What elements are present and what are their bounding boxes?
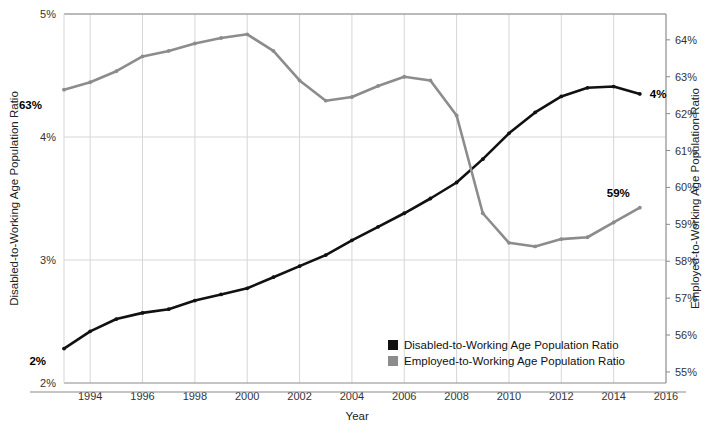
data-point-marker bbox=[350, 95, 354, 99]
x-axis-title: Year bbox=[346, 410, 369, 422]
data-point-marker bbox=[114, 69, 118, 73]
annotation-layer: 2%4%63%59% bbox=[19, 88, 666, 367]
data-point-marker bbox=[612, 221, 616, 225]
data-point-marker bbox=[298, 264, 302, 268]
dual-axis-line-chart: 1994199619982000200220042006200820102012… bbox=[0, 0, 709, 443]
grid-layer bbox=[64, 14, 666, 383]
data-point-marker bbox=[533, 111, 537, 115]
data-point-marker bbox=[638, 92, 642, 96]
data-point-marker bbox=[559, 95, 563, 99]
legend-swatch bbox=[388, 340, 398, 350]
data-point-marker bbox=[455, 114, 459, 118]
legend-layer: Disabled-to-Working Age Population Ratio… bbox=[388, 339, 625, 367]
legend-label: Employed-to-Working Age Population Ratio bbox=[404, 355, 625, 367]
y-tick-label-left: 5% bbox=[40, 8, 56, 20]
data-point-marker bbox=[167, 307, 171, 311]
data-point-marker bbox=[245, 32, 249, 36]
data-point-marker bbox=[271, 275, 275, 279]
data-point-marker bbox=[324, 253, 328, 257]
y-tick-label-right: 63% bbox=[675, 71, 697, 83]
axis-titles-layer: YearDisabled-to-Working Age Population R… bbox=[8, 88, 701, 422]
data-point-marker bbox=[586, 86, 590, 90]
y-tick-label-left: 4% bbox=[40, 131, 56, 143]
y-tick-label-right: 64% bbox=[675, 34, 697, 46]
y-tick-label-right: 56% bbox=[675, 329, 697, 341]
data-point-marker bbox=[88, 80, 92, 84]
y-tick-label-right: 55% bbox=[675, 366, 697, 378]
data-point-marker bbox=[62, 88, 66, 92]
data-point-marker bbox=[62, 347, 66, 351]
data-point-marker bbox=[533, 245, 537, 249]
data-point-marker bbox=[429, 79, 433, 83]
data-point-marker bbox=[507, 241, 511, 245]
data-point-marker bbox=[167, 49, 171, 53]
data-point-marker bbox=[193, 299, 197, 303]
data-point-marker bbox=[402, 75, 406, 79]
data-point-marker bbox=[245, 286, 249, 290]
y-axis-title-right: Employed-to-Working Age Population Ratio bbox=[689, 88, 701, 309]
data-point-marker bbox=[612, 85, 616, 89]
data-point-marker bbox=[455, 181, 459, 185]
data-point-marker bbox=[586, 235, 590, 239]
value-annotation: 4% bbox=[650, 88, 667, 100]
y-tick-label-left: 3% bbox=[40, 254, 56, 266]
data-point-marker bbox=[429, 197, 433, 201]
value-annotation: 2% bbox=[29, 355, 46, 367]
data-point-marker bbox=[88, 329, 92, 333]
data-point-marker bbox=[376, 84, 380, 88]
data-point-marker bbox=[271, 49, 275, 53]
data-point-marker bbox=[402, 211, 406, 215]
y-tick-label-left: 2% bbox=[40, 377, 56, 389]
data-point-marker bbox=[219, 36, 223, 40]
data-point-marker bbox=[324, 99, 328, 103]
data-point-marker bbox=[376, 225, 380, 229]
data-point-marker bbox=[219, 293, 223, 297]
value-annotation: 59% bbox=[607, 187, 630, 199]
data-point-marker bbox=[193, 42, 197, 46]
data-point-marker bbox=[481, 157, 485, 161]
data-point-marker bbox=[350, 238, 354, 242]
data-point-marker bbox=[114, 317, 118, 321]
data-point-marker bbox=[507, 131, 511, 135]
data-point-marker bbox=[559, 237, 563, 241]
data-point-marker bbox=[481, 211, 485, 215]
y-axis-title-left: Disabled-to-Working Age Population Ratio bbox=[8, 91, 20, 306]
chart-container: 1994199619982000200220042006200820102012… bbox=[0, 0, 709, 443]
legend-label: Disabled-to-Working Age Population Ratio bbox=[404, 339, 619, 351]
data-point-marker bbox=[141, 311, 145, 315]
data-point-marker bbox=[298, 79, 302, 83]
data-point-marker bbox=[141, 55, 145, 59]
legend-swatch bbox=[388, 356, 398, 366]
data-point-marker bbox=[638, 206, 642, 210]
value-annotation: 63% bbox=[19, 99, 42, 111]
